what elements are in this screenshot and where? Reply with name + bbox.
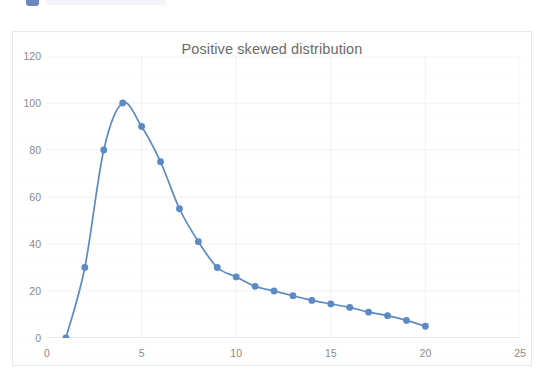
data-point (422, 323, 429, 330)
data-point (327, 301, 334, 308)
data-point (63, 335, 70, 338)
x-tick-label: 15 (325, 347, 337, 359)
x-tick-label: 10 (230, 347, 242, 359)
data-point (384, 312, 391, 319)
data-point (157, 158, 164, 165)
y-tick-label: 20 (29, 285, 41, 297)
y-tick-label: 60 (29, 191, 41, 203)
plot-area: 020406080100120 0510152025 (47, 56, 520, 338)
data-point (403, 317, 410, 324)
y-tick-label: 40 (29, 238, 41, 250)
x-tick-label: 25 (514, 347, 526, 359)
chart-container[interactable]: Positive skewed distribution 02040608010… (12, 31, 532, 366)
chart-title: Positive skewed distribution (13, 41, 531, 57)
x-tick-label: 5 (139, 347, 145, 359)
data-point (346, 304, 353, 311)
data-point (138, 123, 145, 130)
data-point (176, 205, 183, 212)
data-point (365, 309, 372, 316)
horizontal-gridlines (47, 56, 520, 291)
x-tick-label: 0 (44, 347, 50, 359)
data-point (271, 288, 278, 295)
data-point (81, 264, 88, 271)
chart-plot-svg (47, 56, 520, 338)
y-tick-label: 120 (23, 50, 41, 62)
data-point (214, 264, 221, 271)
data-point (308, 297, 315, 304)
y-tick-label: 80 (29, 144, 41, 156)
x-tick-label: 20 (420, 347, 432, 359)
data-point (233, 274, 240, 281)
data-point (119, 100, 126, 107)
y-tick-label: 100 (23, 97, 41, 109)
data-point (290, 292, 297, 299)
series-line-positive-skewed (66, 102, 425, 338)
partial-text-artifact (46, 0, 166, 5)
data-point (252, 283, 259, 290)
data-point (195, 238, 202, 245)
data-point (100, 147, 107, 154)
partial-icon-artifact (26, 0, 39, 6)
y-tick-label: 0 (35, 332, 41, 344)
cropped-top-artifact (0, 0, 200, 12)
series-markers-positive-skewed (63, 100, 429, 338)
